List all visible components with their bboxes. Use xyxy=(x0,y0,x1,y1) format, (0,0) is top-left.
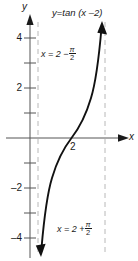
x-axis-arrowhead xyxy=(118,134,129,141)
y-axis-arrowhead xyxy=(26,14,33,25)
equation-rhs: tan (x –2) xyxy=(62,7,102,18)
x-intercept-label: 2 xyxy=(70,142,76,152)
asymptote-left-label: x = 2 −π2 xyxy=(41,46,76,63)
asymptote-right-fraction: π2 xyxy=(85,221,92,238)
y-tick-label-neg4: –4 xyxy=(4,233,22,243)
equation-title: y=tan (x –2) xyxy=(52,8,102,18)
asymptote-left-denominator: 2 xyxy=(69,53,76,62)
tangent-function-graph: y x y=tan (x –2) 4 2 –2 –4 2 x = 2 −π2 x… xyxy=(0,0,138,261)
y-tick-label-neg2: –2 xyxy=(4,183,22,193)
y-axis-label: y xyxy=(22,2,27,12)
asymptote-right-lead: x = 2 + xyxy=(57,224,85,234)
asymptote-left-fraction: π2 xyxy=(69,46,76,63)
asymptote-right-label: x = 2 +π2 xyxy=(57,221,92,238)
curve-arrowhead-top xyxy=(97,21,107,34)
asymptote-right-denominator: 2 xyxy=(85,228,92,237)
curve-arrowhead-bottom xyxy=(36,244,46,257)
asymptote-left-numerator: π xyxy=(69,46,76,54)
y-tick-label-2: 2 xyxy=(8,83,22,93)
asymptote-left-lead: x = 2 − xyxy=(41,49,69,59)
asymptote-right-numerator: π xyxy=(85,221,92,229)
y-tick-label-4: 4 xyxy=(8,33,22,43)
x-axis-label: x xyxy=(129,132,134,142)
